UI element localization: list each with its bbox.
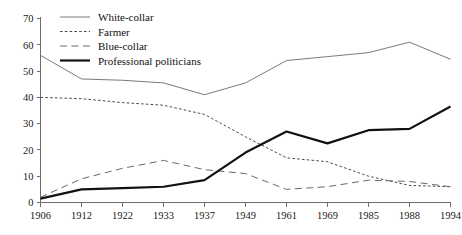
y-tick-label: 60 xyxy=(23,40,34,51)
chart-legend: White-collarFarmerBlue-collarProfessiona… xyxy=(60,11,201,67)
y-tick-label: 0 xyxy=(28,197,33,208)
x-tick-label: 1985 xyxy=(358,210,379,221)
legend-label-farmer: Farmer xyxy=(98,26,130,38)
x-axis: 1906191219221933193719491961196919851988… xyxy=(30,203,462,221)
legend-label-blue-collar: Blue-collar xyxy=(98,40,148,52)
x-tick-label: 1937 xyxy=(194,210,215,221)
chart-canvas: 010203040506070 190619121922193319371949… xyxy=(0,0,462,235)
y-tick-label: 40 xyxy=(23,92,34,103)
y-axis: 010203040506070 xyxy=(23,13,41,208)
x-tick-label: 1988 xyxy=(399,210,420,221)
series-line-blue-collar xyxy=(41,160,451,197)
legend-label-professional-politicians: Professional politicians xyxy=(98,55,201,67)
legend-label-white-collar: White-collar xyxy=(98,11,154,23)
y-tick-label: 30 xyxy=(23,118,34,129)
x-tick-label: 1961 xyxy=(276,210,297,221)
x-tick-label: 1933 xyxy=(153,210,174,221)
series-line-professional-politicians xyxy=(41,107,451,199)
x-tick-label: 1906 xyxy=(30,210,51,221)
line-chart: 010203040506070 190619121922193319371949… xyxy=(0,0,462,235)
x-tick-label: 1969 xyxy=(317,210,338,221)
y-tick-label: 70 xyxy=(23,13,34,24)
x-tick-label: 1922 xyxy=(112,210,133,221)
x-tick-label: 1949 xyxy=(235,210,256,221)
x-tick-label: 1994 xyxy=(440,210,462,221)
y-tick-label: 50 xyxy=(23,66,34,77)
x-tick-label: 1912 xyxy=(71,210,92,221)
y-tick-label: 20 xyxy=(23,145,34,156)
y-tick-label: 10 xyxy=(23,171,34,182)
